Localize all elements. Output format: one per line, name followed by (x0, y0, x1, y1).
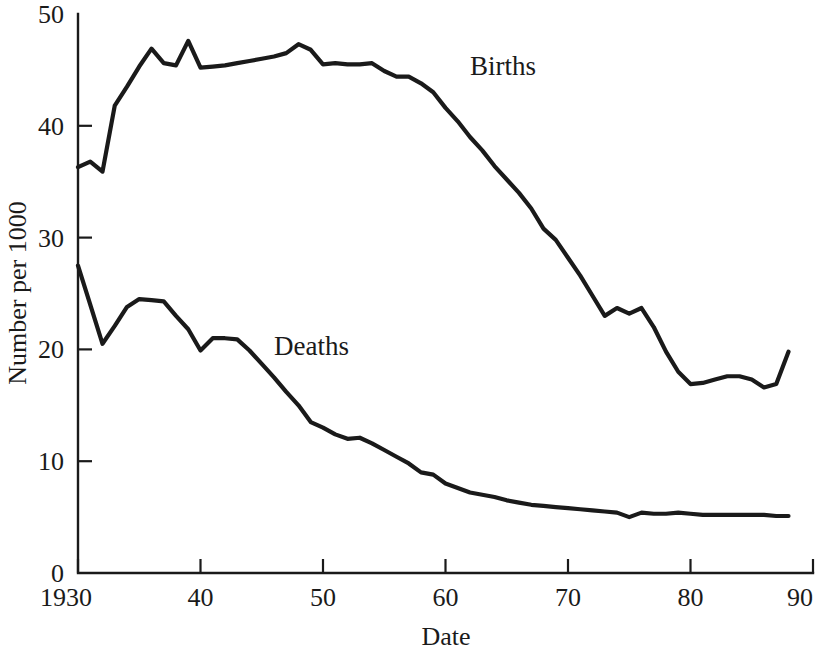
series-label-deaths: Deaths (274, 331, 349, 361)
y-axis-tick-labels: 01020304050 (38, 0, 64, 588)
x-axis-tick-marks (78, 559, 813, 573)
series-label-births: Births (470, 51, 536, 81)
x-axis-title: Date (421, 622, 470, 651)
y-axis-title: Number per 1000 (3, 201, 32, 384)
data-series-group (78, 41, 789, 517)
births-line (78, 41, 789, 388)
chart-container: 1930405060708090 01020304050 BirthsDeath… (0, 0, 832, 651)
x-axis-tick-label: 50 (310, 583, 336, 612)
x-axis-tick-label: 40 (188, 583, 214, 612)
births-deaths-line-chart: 1930405060708090 01020304050 BirthsDeath… (0, 0, 832, 651)
x-axis-tick-label: 70 (555, 583, 581, 612)
x-axis-tick-label: 1930 (40, 583, 92, 612)
y-axis-tick-label: 30 (38, 224, 64, 253)
deaths-line (78, 266, 789, 518)
y-axis-tick-label: 40 (38, 112, 64, 141)
y-axis-tick-label: 0 (51, 559, 64, 588)
axis-lines (78, 14, 813, 573)
x-axis-tick-label: 90 (787, 583, 813, 612)
series-annotations: BirthsDeaths (274, 51, 536, 361)
y-axis-tick-label: 50 (38, 0, 64, 29)
x-axis-tick-label: 80 (678, 583, 704, 612)
x-axis-tick-label: 60 (433, 583, 459, 612)
axes (78, 14, 813, 573)
x-axis-tick-labels: 1930405060708090 (40, 583, 813, 612)
y-axis-tick-label: 10 (38, 447, 64, 476)
y-axis-tick-label: 20 (38, 335, 64, 364)
